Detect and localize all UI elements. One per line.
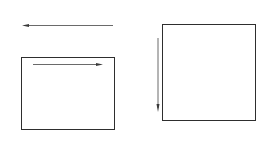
left-grid-3x4 xyxy=(21,57,115,130)
arrow-down-icon xyxy=(156,38,160,112)
finished-block-grid-4x4 xyxy=(162,24,256,121)
arrow-left-icon xyxy=(22,12,113,15)
arrow-right-icon xyxy=(33,51,103,54)
